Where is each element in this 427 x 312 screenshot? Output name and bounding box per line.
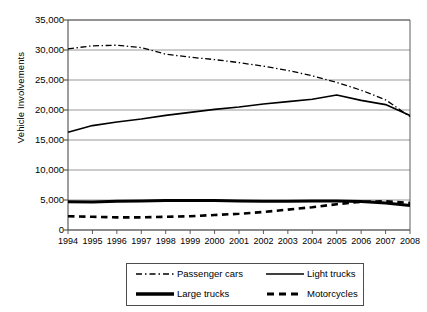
y-tick-label: 30,000 [35,45,64,55]
y-tick-label: 25,000 [35,75,64,85]
series-line-motorcycles [68,201,410,217]
x-tick-label: 1997 [128,236,154,246]
y-axis-tick-labels: 05,00010,00015,00020,00025,00030,00035,0… [8,0,64,312]
y-tick-label: 35,000 [35,15,64,25]
legend-item-light-trucks[interactable]: Light trucks [265,269,356,279]
legend-item-motorcycles[interactable]: Motorcycles [265,289,358,299]
legend-swatch-passenger-cars [135,269,175,279]
x-tick-label: 2002 [250,236,276,246]
x-tick-label: 1995 [79,236,105,246]
x-tick-label: 1998 [153,236,179,246]
y-tick-label: 20,000 [35,105,64,115]
y-tick-label: 0 [59,225,64,235]
legend-label-passenger-cars: Passenger cars [177,269,243,279]
series-line-passenger-cars [68,45,410,116]
x-tick-label: 2003 [275,236,301,246]
legend-label-motorcycles: Motorcycles [307,289,358,299]
legend: Passenger cars Light trucks Large trucks… [126,263,364,306]
x-tick-label: 1996 [104,236,130,246]
legend-item-passenger-cars[interactable]: Passenger cars [135,269,243,279]
series-line-light-trucks [68,95,410,132]
chart-container: Vehicle Involvements 05,00010,00015,0002… [0,0,427,312]
gridlines [68,20,410,230]
x-tick-label: 2004 [299,236,325,246]
x-tick-label: 2008 [397,236,423,246]
x-tick-label: 2007 [373,236,399,246]
y-tick-label: 5,000 [40,195,64,205]
legend-swatch-large-trucks [135,289,175,299]
y-tick-label: 10,000 [35,165,64,175]
y-tick-label: 15,000 [35,135,64,145]
series-lines [68,45,410,217]
x-tick-label: 2005 [324,236,350,246]
x-tick-label: 2000 [202,236,228,246]
x-tick-label: 2001 [226,236,252,246]
legend-label-large-trucks: Large trucks [177,289,229,299]
x-tick-label: 1999 [177,236,203,246]
x-tick-label: 1994 [55,236,81,246]
legend-label-light-trucks: Light trucks [307,269,356,279]
legend-item-large-trucks[interactable]: Large trucks [135,289,229,299]
legend-swatch-motorcycles [265,289,305,299]
x-tick-label: 2006 [348,236,374,246]
legend-swatch-light-trucks [265,269,305,279]
